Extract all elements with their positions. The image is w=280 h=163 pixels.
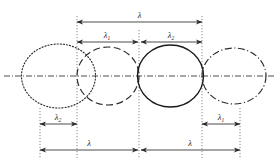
dimension-subscript: 1 xyxy=(221,117,224,123)
dimension-symbol: λ xyxy=(137,10,142,20)
dimension-subscript: 1 xyxy=(107,35,110,41)
dimension-symbol: λ xyxy=(86,138,91,148)
figure-container: λ λ1 λ2 λ2 λ1 xyxy=(0,0,280,163)
dimension-subscript: 2 xyxy=(58,117,61,123)
dimension-label-lambda-bottom-right: λ xyxy=(187,138,192,148)
dimension-label-lambda-bottom-left: λ xyxy=(86,138,91,148)
figure-background xyxy=(0,0,280,163)
dimension-label-top-lambda: λ xyxy=(137,10,142,20)
dimension-symbol: λ xyxy=(187,138,192,148)
wavelength-lobe-diagram: λ λ1 λ2 λ2 λ1 xyxy=(0,0,280,163)
dimension-subscript: 2 xyxy=(171,35,174,41)
